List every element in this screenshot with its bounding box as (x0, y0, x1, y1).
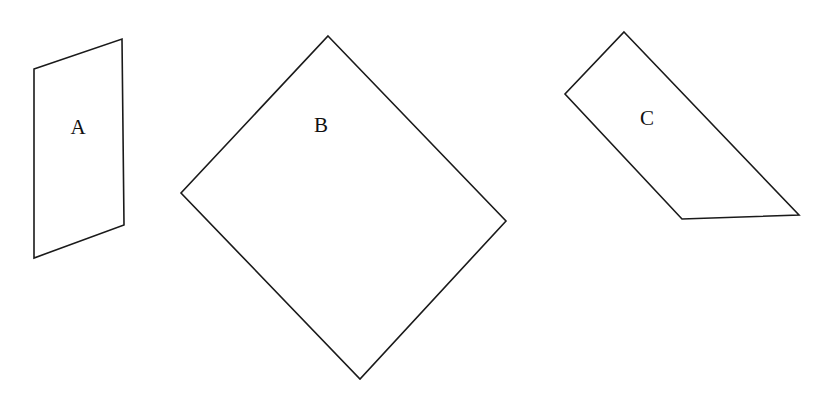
shapes-diagram: A B C (0, 0, 827, 394)
shape-b (181, 36, 506, 379)
shape-c-label: C (640, 106, 654, 130)
shape-c (565, 32, 799, 219)
shape-a (34, 39, 124, 258)
shape-c-group: C (565, 32, 799, 219)
shape-b-group: B (181, 36, 506, 379)
shape-a-group: A (34, 39, 124, 258)
shape-b-label: B (314, 113, 328, 137)
shape-a-label: A (70, 115, 86, 139)
